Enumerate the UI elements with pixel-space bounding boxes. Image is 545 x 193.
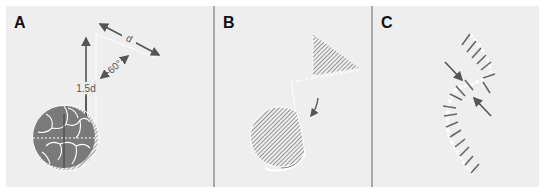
height-label: 1.5d: [76, 83, 95, 94]
sphere-icon: [33, 105, 99, 171]
panel-c-diagram: [373, 6, 539, 187]
dashed-arc: [447, 34, 491, 174]
panel-c: C: [373, 6, 539, 187]
panel-a-diagram: d 60° 1.5d: [6, 6, 213, 187]
hatched-triangle-icon: [313, 34, 360, 76]
figure: A d: [0, 0, 545, 193]
panel-b-diagram: [215, 6, 371, 187]
hatched-circle-icon: [250, 107, 305, 167]
curved-arrow-icon: [311, 98, 318, 116]
inward-arrow-icon: [474, 98, 491, 116]
tick-marks-lower: [443, 106, 479, 173]
panel-b: B: [215, 6, 371, 187]
tick-marks-middle: [450, 80, 473, 100]
panel-a: A d: [6, 6, 213, 187]
inward-arrow-icon: [445, 62, 462, 80]
